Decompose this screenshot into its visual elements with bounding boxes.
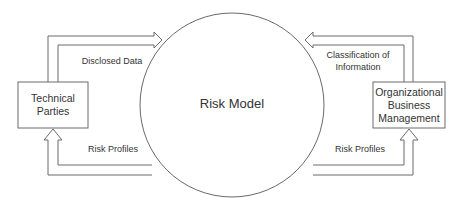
risk-profiles-left-label: Risk Profiles [78, 143, 148, 155]
risk-profiles-right-label: Risk Profiles [325, 143, 395, 155]
box-line: Organizational [373, 86, 445, 99]
technical-parties-label: Technical Parties [18, 92, 88, 118]
box-line: Technical [18, 92, 88, 105]
box-line: Management [373, 112, 445, 125]
risk-model-label: Risk Model [182, 98, 282, 110]
label-line: Classification of [318, 49, 398, 61]
box-line: Parties [18, 105, 88, 118]
disclosed-data-label: Disclosed Data [72, 55, 152, 67]
box-line: Business [373, 99, 445, 112]
classification-label: Classification of Information [318, 49, 398, 73]
label-line: Information [318, 61, 398, 73]
org-business-management-label: Organizational Business Management [373, 86, 445, 125]
